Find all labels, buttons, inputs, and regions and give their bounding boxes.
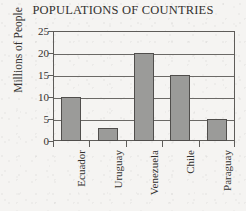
y-axis-tick-label: 0 [29,136,49,147]
x-axis-tick-mark [199,141,200,147]
x-axis-tick-mark [162,141,163,147]
bar [61,97,81,141]
y-axis-tick-label: 20 [29,48,49,59]
x-axis-tick-label: Uruguay [112,150,124,208]
bar [170,75,190,141]
y-axis-tick-label: 15 [29,70,49,81]
y-axis-tick-label: 5 [29,114,49,125]
x-axis-tick-label: Paraguay [221,150,233,208]
x-axis-tick-label: Venezuela [148,150,160,208]
x-axis-tick-marks [53,141,235,148]
x-axis-tick-label: Ecuador [75,150,87,208]
x-axis-tick-labels: EcuadorUruguayVenezuelaChileParaguay [53,150,235,208]
x-axis-tick-mark [53,141,54,147]
bar-chart: POPULATIONS OF COUNTRIES Millions of Peo… [0,0,246,211]
bar [134,53,154,141]
chart-title: POPULATIONS OF COUNTRIES [0,3,246,18]
bar [207,119,227,141]
y-axis-tick-labels: 0510152025 [25,31,49,141]
y-axis-tick-label: 10 [29,92,49,103]
bar [98,128,118,141]
x-axis-tick-mark [89,141,90,147]
x-axis-tick-mark [126,141,127,147]
bars-group [53,31,235,141]
x-axis-tick-label: Chile [184,150,196,208]
y-axis-tick-label: 25 [29,26,49,37]
x-axis-tick-mark [234,141,235,147]
y-axis-label: Millions of People [12,0,24,104]
